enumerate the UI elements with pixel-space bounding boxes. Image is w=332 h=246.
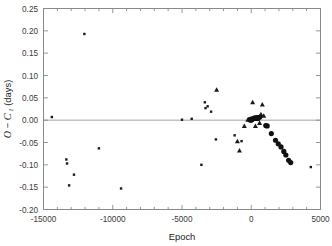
plot-frame: [44, 9, 321, 210]
x-tick-label: 0: [249, 215, 254, 224]
data-point-dot: [65, 158, 67, 160]
x-axis-title: Epoch: [169, 231, 196, 242]
data-point-dot: [200, 164, 202, 166]
y-tick-label: -0.05: [19, 139, 38, 148]
data-point-triangle: [242, 123, 247, 128]
data-point-circle: [257, 114, 262, 119]
y-tick-label: 0.05: [22, 94, 38, 103]
scatter-plot: -15000-10000-5000050000.250.200.150.100.…: [0, 0, 332, 246]
axis-labels-group: -15000-10000-5000050000.250.200.150.100.…: [2, 5, 330, 243]
data-point-dot: [73, 173, 75, 175]
data-point-dot: [210, 110, 212, 112]
data-point-dot: [181, 119, 183, 121]
y-tick-label: 0.15: [22, 49, 38, 58]
data-point-triangle: [214, 87, 219, 92]
data-point-dot: [310, 166, 312, 168]
data-point-dot: [206, 105, 208, 107]
data-point-triangle: [235, 139, 240, 144]
data-point-dot: [68, 184, 70, 186]
axes-group: [44, 9, 321, 210]
y-axis-title-text: O − C 1 (days): [2, 80, 14, 139]
data-point-triangle: [257, 120, 262, 125]
data-point-circle: [283, 152, 288, 157]
data-point-dot: [215, 138, 217, 140]
y-tick-label: 0.10: [22, 72, 38, 81]
data-point-triangle: [250, 100, 255, 105]
data-point-dot: [120, 187, 122, 189]
data-point-dot: [66, 162, 68, 164]
data-point-dot: [233, 134, 235, 136]
x-tick-label: -5000: [172, 215, 193, 224]
series-large-circle: [247, 114, 293, 165]
data-point-dot: [83, 33, 85, 35]
x-tick-label: 5000: [311, 215, 330, 224]
y-tick-label: 0.25: [22, 5, 38, 14]
data-point-dot: [51, 116, 53, 118]
y-axis-title: O − C 1 (days): [2, 80, 14, 139]
series-small-dot: [51, 33, 312, 190]
data-point-dot: [204, 101, 206, 103]
oc-diagram-figure: -15000-10000-5000050000.250.200.150.100.…: [0, 0, 332, 246]
data-point-dot: [98, 147, 100, 149]
data-point-circle: [278, 144, 283, 149]
data-point-dot: [191, 118, 193, 120]
x-tick-label: -10000: [100, 215, 126, 224]
y-tick-label: 0.20: [22, 27, 38, 36]
y-tick-label: -0.15: [19, 183, 38, 192]
data-point-triangle: [253, 123, 258, 128]
data-point-dot: [204, 107, 206, 109]
y-tick-label: -0.10: [19, 161, 38, 170]
data-points-group: [51, 33, 312, 190]
x-tick-label: -15000: [31, 215, 57, 224]
data-point-circle: [288, 160, 293, 165]
y-tick-label: 0.00: [22, 116, 38, 125]
data-point-dot: [240, 140, 242, 142]
data-point-circle: [269, 131, 274, 136]
data-point-circle: [265, 123, 270, 128]
y-tick-label: -0.20: [19, 206, 38, 215]
data-point-triangle: [260, 102, 265, 107]
data-point-triangle: [237, 148, 242, 153]
